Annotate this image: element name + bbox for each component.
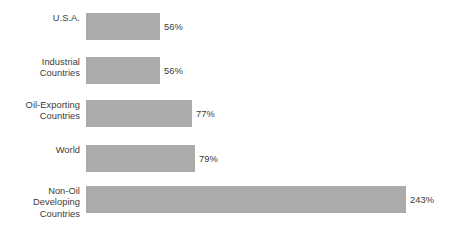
bar-category-label: World — [0, 145, 80, 156]
bar-category-label: Industrial Countries — [0, 57, 80, 80]
bar-value-label: 243% — [410, 194, 434, 205]
chart-bar-row: Non-Oil Developing Countries 243% — [0, 186, 453, 213]
bar-track: 243% — [86, 186, 406, 213]
bar-value-label: 56% — [164, 21, 183, 32]
bar-track: 56% — [86, 13, 160, 40]
bar-value-label: 77% — [196, 108, 215, 119]
bar-track: 79% — [86, 145, 195, 172]
bar-chart: U.S.A. 56% Industrial Countries 56% Oil-… — [0, 0, 453, 230]
bar-value-label: 56% — [164, 65, 183, 76]
bar-fill — [86, 57, 160, 84]
bar-track: 77% — [86, 100, 192, 127]
chart-bar-row: Industrial Countries 56% — [0, 57, 453, 84]
bar-fill — [86, 100, 192, 127]
bar-fill — [86, 145, 195, 172]
bar-category-label: U.S.A. — [0, 13, 80, 24]
chart-bar-row: U.S.A. 56% — [0, 13, 453, 40]
bar-fill — [86, 186, 406, 213]
bar-value-label: 79% — [199, 153, 218, 164]
bar-category-label: Oil-Exporting Countries — [0, 100, 80, 123]
bar-category-label: Non-Oil Developing Countries — [0, 186, 80, 220]
chart-bar-row: World 79% — [0, 145, 453, 172]
bar-fill — [86, 13, 160, 40]
chart-bar-row: Oil-Exporting Countries 77% — [0, 100, 453, 127]
bar-track: 56% — [86, 57, 160, 84]
